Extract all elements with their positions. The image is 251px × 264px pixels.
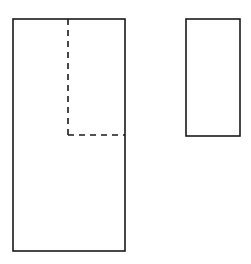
geometry-figure	[0, 0, 251, 264]
figure-canvas	[0, 0, 251, 264]
